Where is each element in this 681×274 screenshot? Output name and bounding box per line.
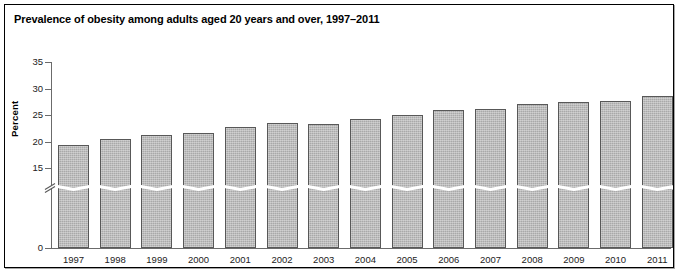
y-tick-label-0: 0 [15,242,43,253]
bar-2009 [558,102,589,248]
plot-area: 01520253035 1997199819992000200120022003… [51,58,671,249]
bar-2011 [642,96,673,248]
bar-2006 [433,110,464,248]
y-tick-label-35: 35 [15,56,43,67]
bar-2007 [475,109,506,248]
bar-2008 [517,104,548,248]
chart-figure: Prevalence of obesity among adults aged … [4,4,674,268]
bar-2000 [183,133,214,248]
y-tick-label-20: 20 [15,136,43,147]
x-tick-label-2008: 2008 [511,254,553,265]
bar-2002 [267,123,298,248]
y-tick-label-30: 30 [15,83,43,94]
bar-1997 [58,145,89,248]
y-tick-label-15: 15 [15,162,43,173]
x-tick-label-2011: 2011 [636,254,678,265]
x-tick-label-1998: 1998 [94,254,136,265]
x-tick-label-2010: 2010 [595,254,637,265]
x-tick-label-2001: 2001 [219,254,261,265]
x-tick-label-2004: 2004 [344,254,386,265]
bar-2004 [350,119,381,248]
bar-1998 [100,139,131,248]
x-axis-line [51,248,671,249]
x-tick-label-1999: 1999 [136,254,178,265]
y-tick-label-25: 25 [15,109,43,120]
x-tick-label-2006: 2006 [428,254,470,265]
y-tick-30 [45,89,51,90]
x-tick-label-2005: 2005 [386,254,428,265]
axis-break-slashes [44,180,60,194]
x-tick-label-2002: 2002 [261,254,303,265]
bar-2003 [308,124,339,248]
bar-2010 [600,101,631,248]
chart-title: Prevalence of obesity among adults aged … [14,13,380,25]
y-tick-0 [45,248,51,249]
y-tick-25 [45,115,51,116]
x-tick-label-1997: 1997 [53,254,95,265]
x-tick-label-2003: 2003 [303,254,345,265]
x-tick-label-2009: 2009 [553,254,595,265]
x-tick-label-2007: 2007 [470,254,512,265]
y-tick-15 [45,168,51,169]
y-axis-line [51,62,52,249]
bar-2005 [392,115,423,248]
y-tick-20 [45,142,51,143]
x-tick-label-2000: 2000 [178,254,220,265]
y-tick-35 [45,62,51,63]
bar-1999 [141,135,172,248]
bar-2001 [225,127,256,248]
